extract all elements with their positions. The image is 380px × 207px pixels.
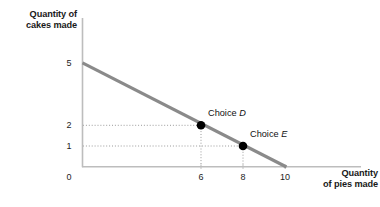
x-axis-title-text-line1: Quantity	[342, 168, 378, 178]
x-axis-title-text-line2: of pies made	[296, 179, 378, 190]
data-label-choice-e-prefix: Choice	[250, 129, 281, 139]
data-point-choice-e	[239, 142, 248, 151]
y-tick-label-1: 1	[62, 141, 76, 151]
data-label-choice-d: Choice D	[208, 108, 246, 118]
data-label-choice-d-prefix: Choice	[208, 108, 239, 118]
data-label-choice-d-letter: D	[239, 108, 246, 118]
x-tick-label-10: 10	[277, 172, 293, 182]
y-axis-title: Quantity of cakes made	[0, 9, 77, 31]
y-tick-label-5: 5	[62, 58, 76, 68]
data-point-choice-d	[197, 121, 206, 130]
x-tick-label-0: 0	[62, 172, 76, 182]
data-label-choice-e: Choice E	[250, 129, 287, 139]
data-label-choice-e-letter: E	[281, 129, 287, 139]
y-tick-label-2: 2	[62, 120, 76, 130]
y-axis-title-text-line2: cakes made	[0, 20, 77, 31]
frontier-line	[83, 63, 287, 167]
x-tick-label-6: 6	[194, 172, 208, 182]
guide-lines-choice-e	[83, 146, 243, 167]
y-axis-title-text-line1: Quantity of	[30, 9, 77, 19]
production-possibilities-chart: Quantity of cakes made Quantity of pies …	[0, 0, 380, 207]
x-tick-label-8: 8	[236, 172, 250, 182]
x-axis-title: Quantity of pies made	[296, 168, 378, 190]
